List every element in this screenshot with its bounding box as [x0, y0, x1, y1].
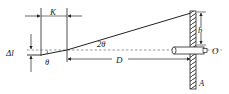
delta-l-dimension: Δl — [5, 34, 41, 72]
label-b: b — [198, 25, 202, 35]
d-dimension: D — [68, 55, 190, 65]
reflected-ray — [67, 13, 191, 50]
theta-arc — [47, 51, 48, 55]
b-dimension: b — [197, 12, 206, 45]
label-k: K — [49, 7, 57, 17]
label-two-theta: 2θ — [97, 39, 105, 49]
label-a: A — [198, 78, 205, 88]
label-theta: θ — [45, 57, 49, 67]
label-o: O — [212, 46, 219, 56]
telescope — [172, 47, 207, 54]
label-delta-l: Δl — [5, 48, 14, 58]
k-dimension: K — [25, 7, 82, 62]
mirror-leg — [41, 50, 67, 55]
optical-lever-diagram: K Δl θ 2θ D b O A — [0, 0, 229, 94]
label-d: D — [115, 55, 123, 65]
